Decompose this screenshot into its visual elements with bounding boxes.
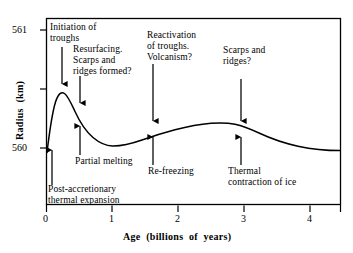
x-tick-label-4: 4 — [307, 213, 312, 224]
annotation-post-accretionary-line1: Post-accretionary — [48, 184, 116, 195]
x-tick-label-0: 0 — [43, 213, 48, 224]
x-tick-label-3: 3 — [241, 213, 246, 224]
annotation-initiation-of-troughs-line2: troughs — [50, 33, 79, 44]
annotation-scarps-ridges-line2: ridges? — [223, 56, 251, 67]
annotation-scarps-ridges-line1: Scarps and — [223, 45, 265, 56]
annotation-post-accretionary-line2: thermal expansion — [48, 195, 120, 206]
annotation-thermal-contraction-line1: Thermal — [228, 166, 261, 177]
x-axis-ticks — [47, 205, 341, 213]
y-axis-ticks — [40, 30, 47, 148]
y-axis-title: Radius (km) — [14, 81, 25, 140]
radius-vs-age-chart: 561 560 Radius (km) 0 1 2 3 4 Age (billi… — [0, 0, 353, 253]
data-curve — [47, 93, 340, 153]
x-axis-title: Age (billions of years) — [123, 231, 231, 242]
x-tick-label-1: 1 — [109, 213, 114, 224]
annotation-initiation-of-troughs-line1: Initiation of — [50, 22, 96, 33]
annotation-resurfacing-line2: Scarps and — [73, 55, 115, 66]
annotation-resurfacing-line3: ridges formed? — [73, 66, 132, 77]
annotation-re-freezing: Re-freezing — [148, 166, 194, 177]
annotation-reactivation-line2: of troughs. — [147, 41, 189, 52]
annotation-partial-melting: Partial melting — [75, 156, 133, 167]
annotation-thermal-contraction-line2: contraction of ice — [228, 177, 296, 188]
y-tick-label-560: 560 — [12, 142, 27, 153]
annotation-reactivation-line1: Reactivation — [147, 30, 196, 41]
x-tick-label-2: 2 — [175, 213, 180, 224]
annotation-resurfacing-line1: Resurfacing. — [73, 44, 122, 55]
annotation-reactivation-line3: Volcanism? — [147, 52, 192, 63]
y-tick-label-561: 561 — [12, 24, 27, 35]
